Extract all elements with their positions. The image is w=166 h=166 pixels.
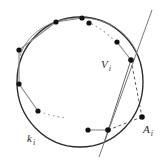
label-external-ai-base: A [143,123,150,135]
label-external-ai: Ai [143,120,153,138]
point-p1 [53,19,58,24]
label-circle-ki-base: k [27,132,32,144]
point-vertex-vi [128,57,134,63]
point-p9 [85,127,90,132]
label-vertex-vi-base: V [101,58,108,70]
label-circle-ki: ki [27,129,35,147]
dotted-arc-top [92,24,114,40]
chord-p6-p1 [19,22,56,50]
point-p6 [16,47,21,52]
point-external-ai [139,114,145,120]
label-vertex-vi-sub: i [109,64,111,73]
point-p10 [105,127,111,133]
point-p7 [16,81,21,86]
inner-arc [20,18,137,56]
dashed-vi-ai [131,60,142,117]
dotted-arc-bottom [44,113,66,118]
label-circle-ki-sub: i [33,138,35,147]
geometry-figure: Vi Ai ki [0,0,166,166]
dashed-construction [108,60,142,130]
point-p4 [114,39,119,44]
label-external-ai-sub: i [151,129,153,138]
point-p2 [79,15,84,20]
chord-p4-vi [117,42,131,60]
diagram-canvas [0,0,166,166]
point-p8 [35,108,40,113]
label-vertex-vi: Vi [101,55,111,73]
point-p3 [86,20,91,25]
